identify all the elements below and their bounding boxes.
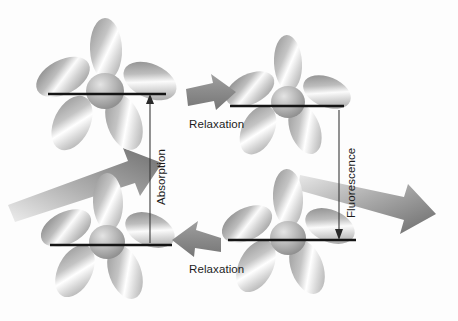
relaxation-top-arrow xyxy=(186,74,236,110)
label-relaxation-bottom: Relaxation xyxy=(189,263,244,275)
label-relaxation-top: Relaxation xyxy=(189,118,244,130)
label-fluorescence: Fluorescence xyxy=(345,148,357,218)
orbital-cluster-excited-right xyxy=(220,34,356,160)
diagram-canvas: Relaxation Relaxation Absorption Fluores… xyxy=(0,0,458,321)
relaxation-bottom-arrow xyxy=(172,221,221,257)
orbital-cluster-excited-left xyxy=(29,17,182,156)
excitation-beam-arrow xyxy=(8,148,162,222)
label-absorption: Absorption xyxy=(155,149,167,205)
